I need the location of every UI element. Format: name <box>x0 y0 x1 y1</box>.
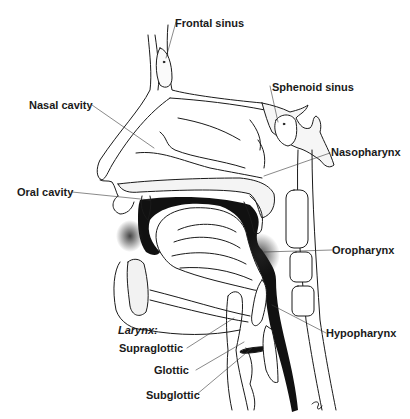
label-sphenoid-sinus: Sphenoid sinus <box>272 82 354 93</box>
label-oropharynx: Oropharynx <box>332 245 394 256</box>
anatomy-illustration <box>0 0 410 419</box>
label-subglottic: Subglottic <box>146 390 200 401</box>
label-hypopharynx: Hypopharynx <box>326 328 396 339</box>
label-nasal-cavity: Nasal cavity <box>29 100 93 111</box>
frontal-sinus <box>156 48 172 87</box>
lips-teeth <box>113 196 151 330</box>
nose <box>100 180 118 196</box>
frontal-bone <box>97 25 265 180</box>
label-oral-cavity: Oral cavity <box>17 187 73 198</box>
label-nasopharynx: Nasopharynx <box>331 147 401 158</box>
label-larynx-heading: Larynx: <box>118 325 158 336</box>
nasal-turbinates <box>136 118 265 178</box>
label-frontal-sinus: Frontal sinus <box>175 18 244 29</box>
label-supraglottic: Supraglottic <box>119 343 183 354</box>
cervical-spine <box>286 150 336 410</box>
label-glottic: Glottic <box>154 365 189 376</box>
mandible-floor <box>146 290 250 335</box>
